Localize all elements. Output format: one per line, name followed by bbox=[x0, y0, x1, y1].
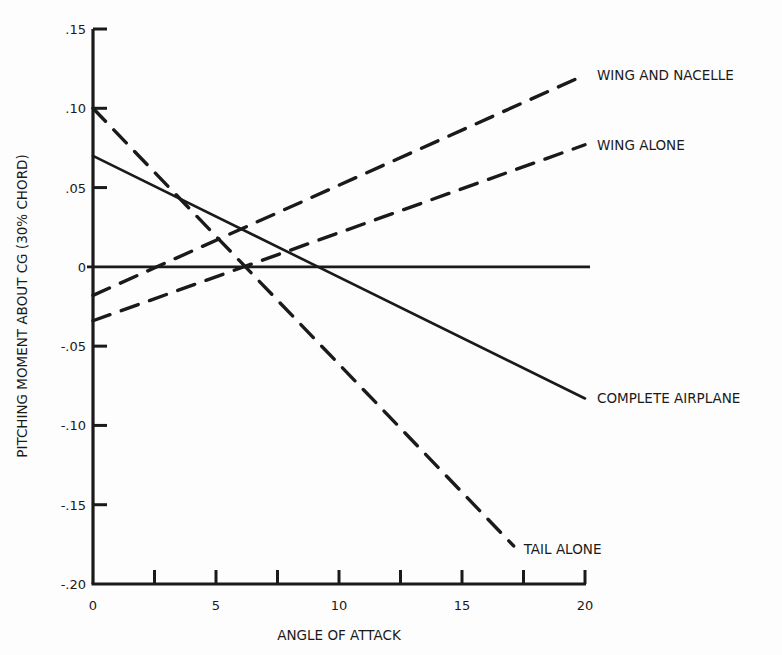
x-tick-label: 10 bbox=[331, 598, 348, 613]
x-tick-label: 20 bbox=[577, 598, 594, 613]
x-tick-label: 0 bbox=[89, 598, 97, 613]
pitching-moment-chart: .15.10.050-.05-.10-.15-.2005101520 WING … bbox=[0, 0, 782, 655]
series-line-wing-alone bbox=[93, 145, 585, 321]
series-label-wing-and-nacelle: WING AND NACELLE bbox=[597, 67, 734, 83]
y-axis-title: PITCHING MOMENT ABOUT CG (30% CHORD) bbox=[14, 154, 30, 457]
x-axis-title: ANGLE OF ATTACK bbox=[277, 627, 402, 643]
series-label-tail-alone: TAIL ALONE bbox=[523, 541, 602, 557]
series-line-tail-alone bbox=[93, 108, 514, 546]
y-tick-label: .15 bbox=[65, 22, 86, 37]
axes: .15.10.050-.05-.10-.15-.2005101520 bbox=[61, 22, 594, 613]
y-tick-label: -.10 bbox=[61, 418, 86, 433]
y-tick-label: .10 bbox=[65, 101, 86, 116]
y-tick-label: -.05 bbox=[61, 339, 86, 354]
series-labels: WING AND NACELLEWING ALONECOMPLETE AIRPL… bbox=[523, 67, 741, 557]
series-label-complete-airplane: COMPLETE AIRPLANE bbox=[597, 390, 740, 406]
x-tick-label: 15 bbox=[454, 598, 471, 613]
series-label-wing-alone: WING ALONE bbox=[597, 137, 685, 153]
x-tick-label: 5 bbox=[212, 598, 220, 613]
y-tick-label: .05 bbox=[65, 181, 86, 196]
y-tick-label: 0 bbox=[78, 260, 86, 275]
series-line-complete-airplane bbox=[93, 156, 585, 399]
y-tick-label: -.20 bbox=[61, 577, 86, 592]
y-tick-label: -.15 bbox=[61, 498, 86, 513]
series-lines bbox=[93, 75, 585, 546]
